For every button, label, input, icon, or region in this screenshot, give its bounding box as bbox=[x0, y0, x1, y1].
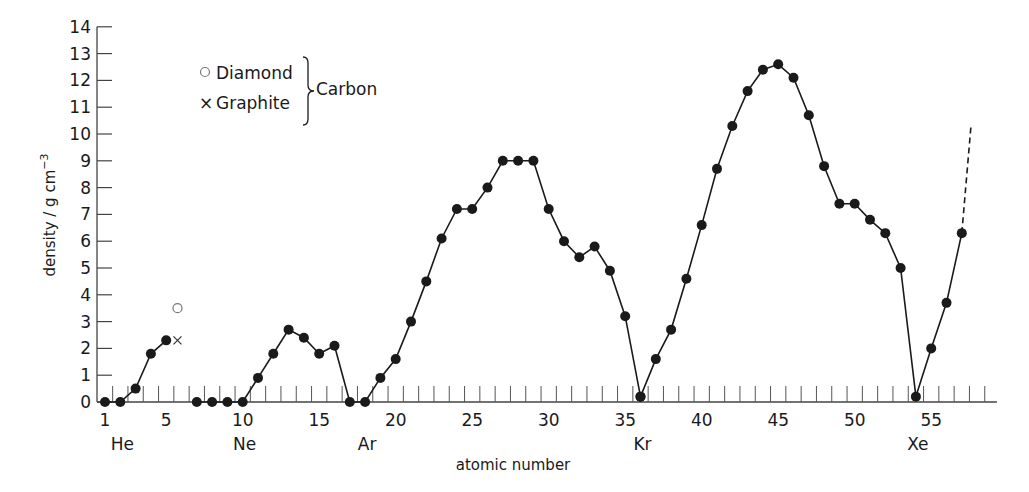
data-point bbox=[789, 73, 799, 83]
y-axis: 01234567891011121314 bbox=[69, 17, 112, 412]
diamond-point bbox=[173, 304, 182, 313]
data-point bbox=[483, 183, 493, 193]
y-tick-label: 4 bbox=[80, 285, 91, 305]
data-point bbox=[115, 397, 125, 407]
y-tick-label: 0 bbox=[80, 392, 91, 412]
data-point bbox=[360, 397, 370, 407]
x-axis: 1510152025303540455055HeNeArKrXe bbox=[97, 386, 997, 454]
data-point bbox=[528, 156, 538, 166]
data-point bbox=[498, 156, 508, 166]
element-label: He bbox=[111, 434, 134, 454]
data-point bbox=[574, 252, 584, 262]
element-label: Kr bbox=[633, 434, 651, 454]
y-tick-label: 12 bbox=[69, 70, 91, 90]
data-point bbox=[253, 373, 263, 383]
data-point bbox=[666, 325, 676, 335]
x-tick-label: 45 bbox=[767, 410, 789, 430]
element-label: Xe bbox=[907, 434, 928, 454]
y-tick-label: 14 bbox=[69, 17, 91, 37]
data-point bbox=[375, 373, 385, 383]
data-point bbox=[467, 204, 477, 214]
data-point bbox=[513, 156, 523, 166]
data-point bbox=[926, 343, 936, 353]
data-point bbox=[681, 274, 691, 284]
data-point bbox=[957, 228, 967, 238]
y-axis-label: density / g cm−3 bbox=[38, 154, 59, 277]
x-tick-label: 30 bbox=[538, 410, 560, 430]
data-point bbox=[834, 199, 844, 209]
x-tick-label: 5 bbox=[161, 410, 172, 430]
data-point bbox=[192, 397, 202, 407]
data-point bbox=[865, 215, 875, 225]
data-point bbox=[314, 349, 324, 359]
density-chart: 01234567891011121314 1510152025303540455… bbox=[0, 0, 1029, 492]
data-point bbox=[421, 276, 431, 286]
data-point bbox=[605, 266, 615, 276]
y-tick-label: 3 bbox=[80, 312, 91, 332]
carbon-points bbox=[173, 304, 182, 345]
brace-icon bbox=[303, 57, 314, 125]
data-point bbox=[758, 65, 768, 75]
graphite-point bbox=[174, 336, 182, 344]
legend-graphite-label: Graphite bbox=[216, 93, 290, 113]
data-point bbox=[268, 349, 278, 359]
data-point bbox=[146, 349, 156, 359]
x-tick-label: 25 bbox=[461, 410, 483, 430]
data-point bbox=[727, 121, 737, 131]
series-line bbox=[197, 161, 641, 402]
x-tick-label: 1 bbox=[100, 410, 111, 430]
element-label: Ar bbox=[358, 434, 377, 454]
data-point bbox=[391, 354, 401, 364]
data-point bbox=[651, 354, 661, 364]
y-tick-label: 5 bbox=[80, 258, 91, 278]
diamond-marker-icon bbox=[201, 68, 210, 77]
data-point bbox=[880, 228, 890, 238]
data-point bbox=[819, 161, 829, 171]
data-point bbox=[850, 199, 860, 209]
data-point bbox=[942, 298, 952, 308]
x-tick-label: 55 bbox=[920, 410, 942, 430]
data-point bbox=[238, 397, 248, 407]
element-label: Ne bbox=[233, 434, 256, 454]
data-point bbox=[131, 384, 141, 394]
data-point bbox=[590, 242, 600, 252]
data-point bbox=[911, 392, 921, 402]
y-tick-label: 13 bbox=[69, 44, 91, 64]
data-point bbox=[773, 59, 783, 69]
graphite-marker-icon: × bbox=[199, 93, 213, 113]
data-point bbox=[712, 164, 722, 174]
data-point bbox=[284, 325, 294, 335]
data-point bbox=[620, 311, 630, 321]
legend-group-label: Carbon bbox=[316, 79, 377, 99]
data-point bbox=[544, 204, 554, 214]
y-tick-label: 10 bbox=[69, 124, 91, 144]
data-point bbox=[345, 397, 355, 407]
data-point bbox=[636, 392, 646, 402]
x-tick-label: 10 bbox=[232, 410, 254, 430]
legend-diamond-label: Diamond bbox=[216, 63, 293, 83]
data-point bbox=[299, 333, 309, 343]
y-tick-label: 6 bbox=[80, 231, 91, 251]
data-point bbox=[330, 341, 340, 351]
data-point bbox=[406, 317, 416, 327]
y-tick-label: 1 bbox=[80, 365, 91, 385]
data-point bbox=[437, 234, 447, 244]
dashed-extension bbox=[962, 126, 971, 233]
data-point bbox=[743, 86, 753, 96]
data-point bbox=[559, 236, 569, 246]
x-axis-label: atomic number bbox=[456, 456, 571, 474]
data-point bbox=[100, 397, 110, 407]
y-tick-label: 7 bbox=[80, 204, 91, 224]
data-point bbox=[222, 397, 232, 407]
x-tick-label: 40 bbox=[691, 410, 713, 430]
x-tick-label: 20 bbox=[385, 410, 407, 430]
legend: Diamond × Graphite Carbon bbox=[199, 57, 377, 125]
x-tick-label: 50 bbox=[844, 410, 866, 430]
y-tick-label: 8 bbox=[80, 178, 91, 198]
data-point bbox=[161, 335, 171, 345]
series-line bbox=[641, 64, 962, 396]
x-tick-label: 35 bbox=[614, 410, 636, 430]
y-tick-label: 11 bbox=[69, 97, 91, 117]
y-tick-label: 2 bbox=[80, 338, 91, 358]
x-tick-label: 15 bbox=[308, 410, 330, 430]
